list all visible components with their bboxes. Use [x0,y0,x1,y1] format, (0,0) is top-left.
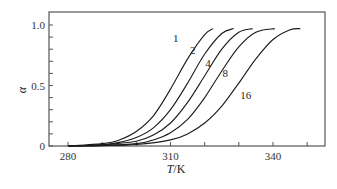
plot-border [49,12,325,146]
plot-frame [49,12,325,146]
x-axis-label-unit: /K [173,162,185,176]
curve-label-2: 2 [190,44,196,56]
chart: 280310340 00.51.0 124816 α T/K [0,0,337,189]
y-tick-label: 0 [40,140,46,152]
y-axis-ticks: 00.51.0 [31,19,53,152]
curve-label-4: 4 [205,57,211,69]
curve-label-16: 16 [240,89,252,101]
curve-16 [68,29,300,146]
curve-4 [68,29,253,146]
curve-label-8: 8 [222,67,228,79]
x-tick-label: 280 [60,150,77,162]
x-tick-label: 340 [265,150,282,162]
x-axis-label: T/K [167,162,186,176]
y-axis-label: α [15,86,29,93]
y-tick-label: 0.5 [31,80,45,92]
curves [68,29,300,146]
x-tick-label: 310 [162,150,179,162]
curve-2 [68,29,234,146]
curve-label-1: 1 [173,32,179,44]
curve-labels: 124816 [173,32,252,101]
y-tick-label: 1.0 [31,19,45,31]
